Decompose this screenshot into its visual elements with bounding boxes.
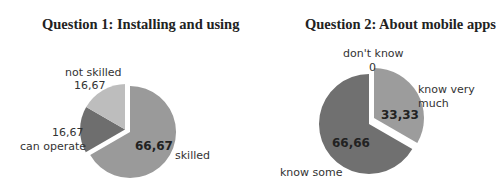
chart-2-title: Question 2: About mobile apps [305, 16, 496, 33]
value-can-operate: 16,67 [52, 126, 84, 140]
label-know-some: know some [280, 166, 343, 180]
value-know-very-much: 33,33 [381, 108, 419, 122]
label-dont-know: don't know [343, 47, 404, 61]
value-dont-know: 0 [369, 61, 376, 75]
value-know-some: 66,66 [332, 136, 370, 150]
label-not-skilled: not skilled [65, 66, 122, 80]
value-skilled: 66,67 [135, 139, 173, 153]
pie-1 [80, 84, 176, 178]
label-can-operate: can operate [20, 140, 86, 154]
value-not-skilled: 16,67 [74, 79, 106, 93]
label-skilled: skilled [175, 149, 210, 163]
label-know-very-much-line2: much [418, 97, 449, 111]
label-know-very-much-line1: know very [418, 83, 475, 97]
